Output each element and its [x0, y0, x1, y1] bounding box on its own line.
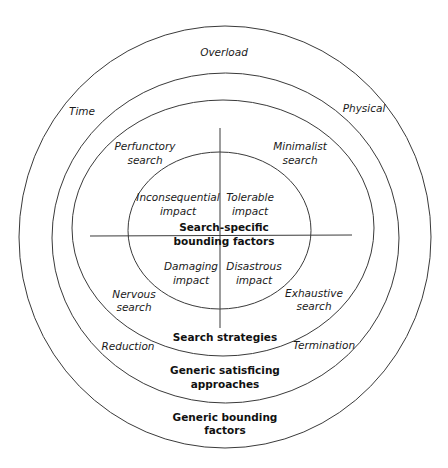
- label-overload: Overload: [200, 46, 248, 58]
- title-generic-bounding-line1: Generic bounding: [173, 411, 278, 423]
- label-physical: Physical: [343, 102, 386, 114]
- title-generic-satisficing-line1: Generic satisficing: [170, 364, 280, 376]
- label-tolerable-line1: Tolerable: [226, 191, 274, 203]
- label-minimalist-line1: Minimalist: [273, 140, 328, 152]
- label-damaging-line1: Damaging: [164, 260, 218, 272]
- title-search-strategies: Search strategies: [173, 331, 277, 343]
- label-exhaustive-line1: Exhaustive: [285, 287, 343, 299]
- label-inconsequential-line1: Inconsequential: [136, 191, 219, 203]
- label-disastrous-line1: Disastrous: [226, 260, 282, 272]
- label-damaging-line2: impact: [173, 274, 210, 286]
- title-search-specific-line2: bounding factors: [174, 235, 275, 247]
- label-exhaustive-line2: search: [296, 300, 331, 312]
- label-reduction: Reduction: [102, 340, 155, 352]
- label-perfunctory-line1: Perfunctory: [115, 140, 177, 152]
- label-inconsequential-line2: impact: [160, 205, 197, 217]
- label-disastrous-line2: impact: [236, 274, 273, 286]
- label-tolerable-line2: impact: [232, 205, 269, 217]
- title-search-specific-line1: Search-specific: [179, 221, 269, 233]
- concentric-diagram: Overload Time Physical Perfunctory searc…: [0, 0, 448, 468]
- label-minimalist-line2: search: [282, 154, 317, 166]
- title-generic-satisficing-line2: approaches: [191, 378, 260, 390]
- title-generic-bounding-line2: factors: [204, 424, 246, 436]
- label-nervous-line2: search: [116, 301, 151, 313]
- label-perfunctory-line2: search: [127, 154, 162, 166]
- label-nervous-line1: Nervous: [112, 288, 156, 300]
- label-time: Time: [69, 105, 95, 117]
- label-termination: Termination: [293, 339, 355, 351]
